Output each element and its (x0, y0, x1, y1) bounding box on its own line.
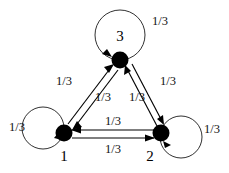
self-loop-label-2: 1/3 (204, 122, 220, 136)
node-label-2: 2 (146, 148, 154, 164)
edge-label-2-to-3: 1/3 (160, 74, 176, 88)
node-label-1: 1 (60, 148, 68, 164)
arrow-head-3-to-2 (157, 115, 164, 125)
edge-label-2-to-1: 1/3 (105, 142, 121, 156)
edge-label-3-to-1: 1/3 (95, 90, 111, 104)
edge-label-1-to-2: 1/3 (105, 114, 121, 128)
node-1-dot[interactable] (56, 125, 73, 142)
state-diagram-canvas: 1 2 3 1/3 1/3 1/3 1/3 1/3 1/3 1/3 1/3 1/… (0, 0, 229, 173)
arrow-head-1-to-3 (104, 64, 114, 73)
node-3-dot[interactable] (112, 52, 129, 69)
arrow-head-self-loop-2 (163, 141, 171, 148)
arrow-head-self-loop-3 (102, 49, 112, 57)
self-loop-label-3: 1/3 (152, 14, 168, 28)
edge-label-3-to-2: 1/3 (129, 90, 145, 104)
markov-chain-diagram: 1 2 3 1/3 1/3 1/3 1/3 1/3 1/3 1/3 1/3 1/… (0, 0, 229, 173)
self-loop-label-1: 1/3 (9, 120, 25, 134)
edge-label-1-to-3: 1/3 (56, 74, 72, 88)
node-2-dot[interactable] (153, 125, 170, 142)
node-label-3: 3 (116, 28, 124, 44)
